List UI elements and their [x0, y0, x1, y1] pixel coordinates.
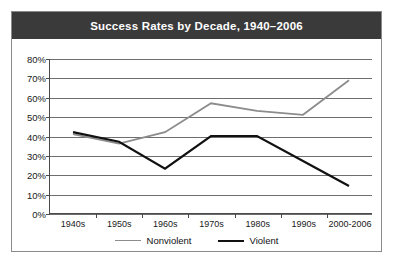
gridline [50, 214, 372, 215]
legend-swatch [218, 240, 244, 242]
x-axis-tick-label: 1990s [292, 219, 317, 229]
series-line-violent [73, 132, 349, 186]
y-axis-tick-label: 10% [27, 189, 46, 200]
chart-figure: Success Rates by Decade, 1940–2006 0%10%… [11, 11, 382, 252]
x-axis-tick-mark [327, 213, 328, 218]
x-axis-tick-label: 1940s [61, 219, 86, 229]
plot-area: 0%10%20%30%40%50%60%70%80% 1940s1950s196… [49, 59, 372, 214]
legend-item: Violent [218, 235, 279, 246]
legend-item: Nonviolent [115, 235, 192, 246]
y-axis-tick-label: 20% [27, 170, 46, 181]
x-axis-tick-mark [235, 213, 236, 218]
series-line-nonviolent [73, 80, 349, 144]
y-axis-tick-label: 30% [27, 150, 46, 161]
x-axis-tick-label: 2000-2006 [328, 219, 371, 229]
legend-label: Violent [250, 235, 279, 246]
legend-swatch [115, 240, 141, 241]
y-axis-tick-label: 60% [27, 92, 46, 103]
chart-title-bar: Success Rates by Decade, 1940–2006 [12, 12, 381, 39]
page-title: Success Rates by Decade, 1940–2006 [90, 20, 303, 32]
x-axis-tick-mark [96, 213, 97, 218]
y-axis-tick-label: 40% [27, 131, 46, 142]
y-axis-tick-label: 0% [32, 209, 46, 220]
x-axis-tick-mark [281, 213, 282, 218]
y-axis-tick-mark [46, 214, 50, 215]
y-axis-tick-label: 80% [27, 54, 46, 65]
chart-legend: NonviolentViolent [12, 235, 381, 246]
legend-label: Nonviolent [147, 235, 192, 246]
x-axis-tick-mark [188, 213, 189, 218]
x-axis-tick-label: 1970s [199, 219, 224, 229]
plot-region: 0%10%20%30%40%50%60%70%80% 1940s1950s196… [12, 39, 381, 253]
x-axis-tick-mark [142, 213, 143, 218]
x-axis-tick-label: 1960s [153, 219, 178, 229]
y-axis-tick-label: 50% [27, 112, 46, 123]
series-lines [50, 59, 372, 213]
y-axis-tick-label: 70% [27, 73, 46, 84]
x-axis-tick-label: 1950s [107, 219, 132, 229]
x-axis-tick-label: 1980s [245, 219, 270, 229]
